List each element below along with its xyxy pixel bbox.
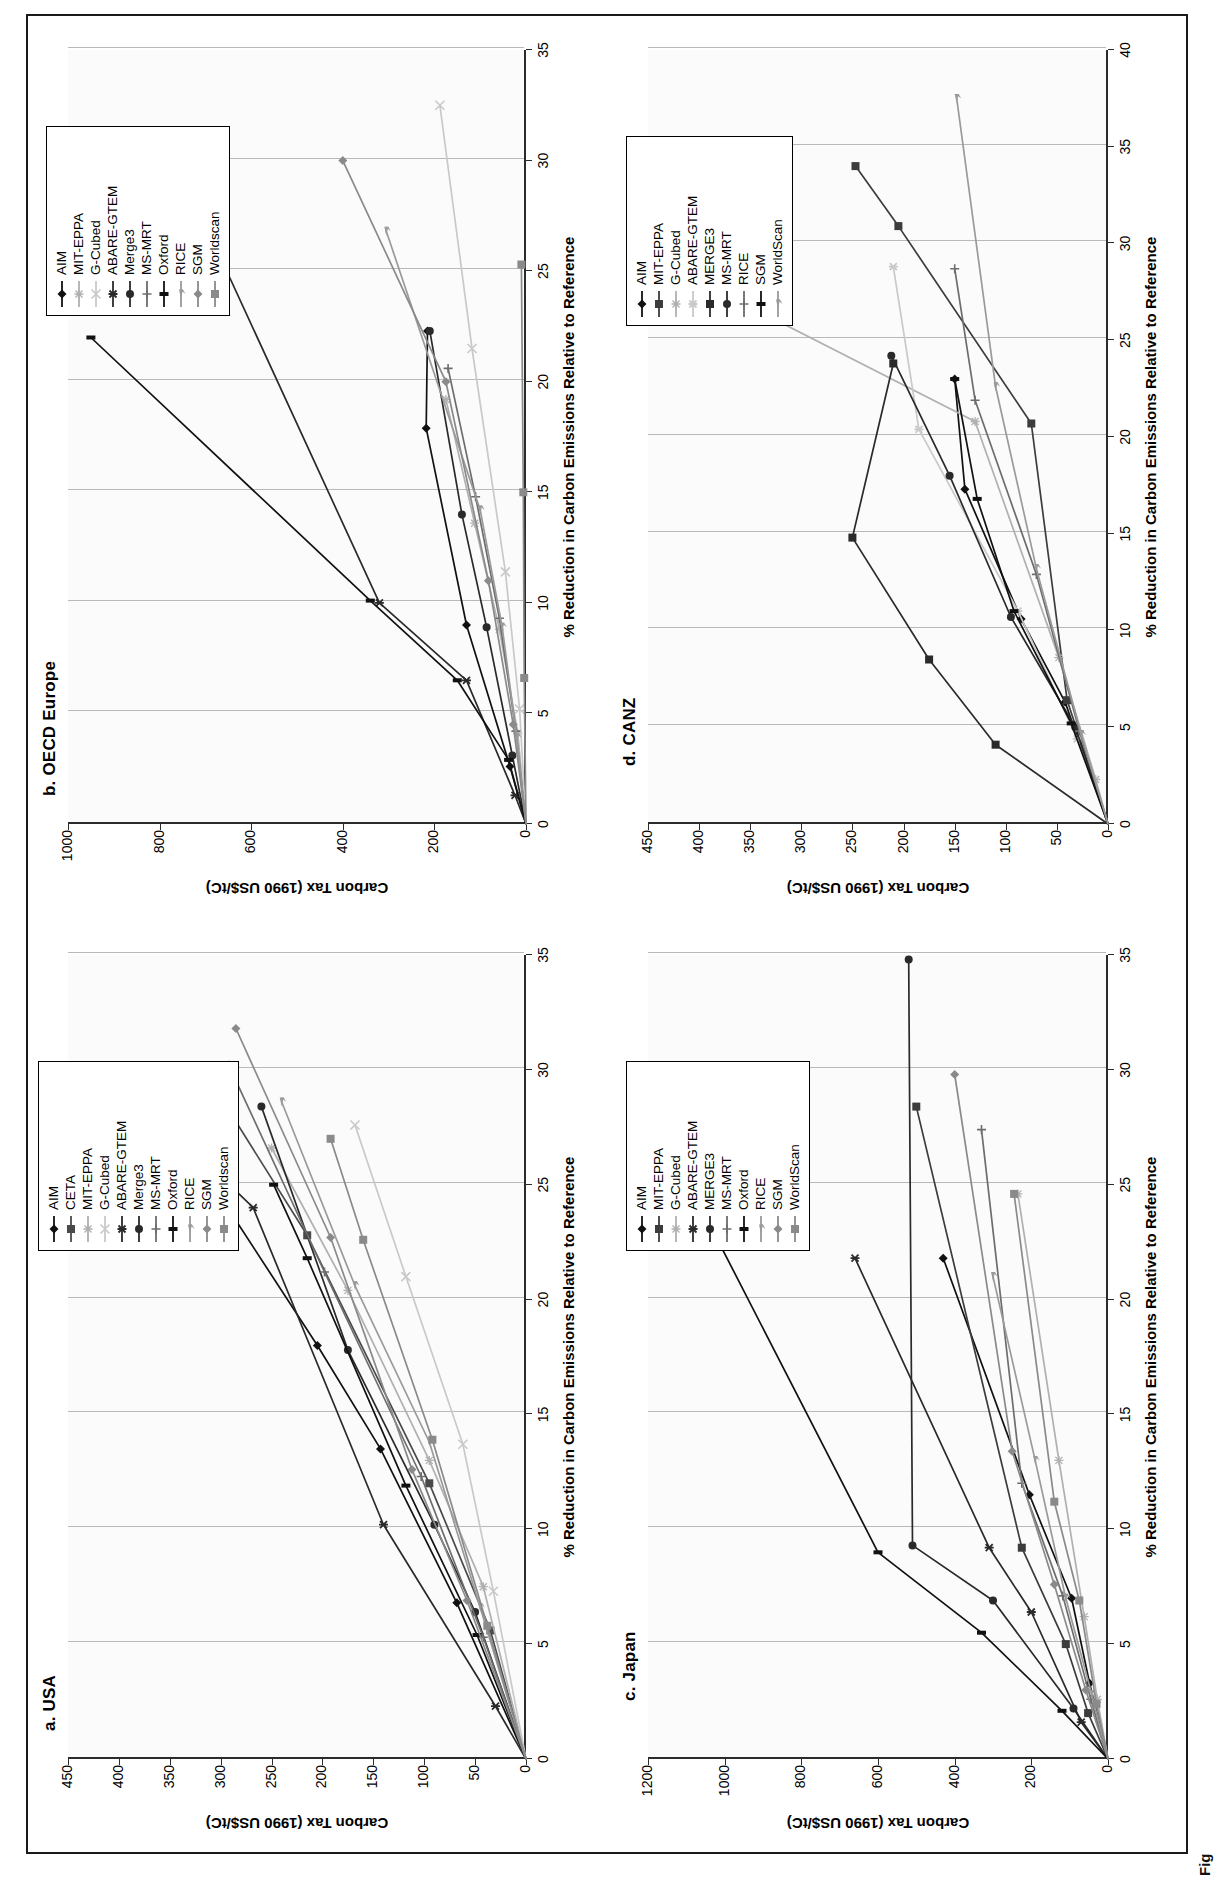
legend-item[interactable]: RICE xyxy=(735,145,752,317)
legend-item[interactable]: MERGE3 xyxy=(701,1070,718,1242)
legend-item[interactable]: WorldScan xyxy=(786,1070,803,1242)
legend-item[interactable]: ABARE-GTEM xyxy=(684,145,701,317)
legend-item[interactable]: MERGE3 xyxy=(701,145,718,317)
legend-item[interactable]: ABARE-GTEM xyxy=(113,1070,130,1242)
series-marker xyxy=(483,1622,491,1630)
series-line xyxy=(957,98,1108,824)
legend-item[interactable]: ABARE-GTEM xyxy=(684,1070,701,1242)
series-marker xyxy=(249,1204,258,1211)
legend-item[interactable]: MIT-EPPA xyxy=(650,1070,667,1242)
legend-item[interactable]: CETA xyxy=(62,1070,79,1242)
legend-label: SGM xyxy=(769,1179,786,1210)
legend-item[interactable]: SGM xyxy=(752,145,769,317)
series-marker xyxy=(1075,1597,1083,1605)
series-marker xyxy=(519,488,527,496)
legend-label: MS-MRT xyxy=(718,1156,735,1210)
legend-item[interactable]: G-Cubed xyxy=(667,1070,684,1242)
series-marker xyxy=(1067,721,1076,725)
legend-item[interactable]: G-Cubed xyxy=(96,1070,113,1242)
legend-label: AIM xyxy=(45,1186,62,1210)
legend-label: Oxford xyxy=(735,1169,752,1210)
legend-item[interactable]: ABARE-GTEM xyxy=(104,135,121,307)
series-line xyxy=(852,364,1108,825)
legend-marker-bar-icon xyxy=(754,291,768,317)
series-marker xyxy=(517,261,525,269)
legend-item[interactable]: AIM xyxy=(633,145,650,317)
series-marker xyxy=(1093,1700,1101,1708)
legend-item[interactable]: SGM xyxy=(198,1070,215,1242)
legend-marker-tri-icon xyxy=(183,1216,197,1242)
legend-item[interactable]: RICE xyxy=(181,1070,198,1242)
series-marker xyxy=(401,1272,410,1281)
legend-label: ABARE-GTEM xyxy=(684,196,701,285)
legend-marker-bar-icon xyxy=(737,1216,751,1242)
legend-marker-square-icon xyxy=(788,1216,802,1242)
series-marker xyxy=(425,1479,433,1487)
legend-item[interactable]: WorldScan xyxy=(769,145,786,317)
legend-item[interactable]: Worldscan xyxy=(215,1070,232,1242)
legend-label: SGM xyxy=(752,254,769,285)
legend-label: MIT-EPPA xyxy=(650,223,667,285)
series-marker xyxy=(874,1550,883,1554)
series-marker xyxy=(1007,613,1015,621)
legend-item[interactable]: AIM xyxy=(45,1070,62,1242)
legend-label: AIM xyxy=(53,251,70,275)
series-marker xyxy=(950,1070,959,1079)
panel-japan: c. Japan05101520253035020040060080010001… xyxy=(608,921,1186,1851)
legend: AIM CETA xyxy=(38,1061,239,1251)
legend-item[interactable]: MIT-EPPA xyxy=(650,145,667,317)
legend-item[interactable]: MIT-EPPA xyxy=(79,1070,96,1242)
legend-marker-plus-icon xyxy=(737,291,751,317)
legend-item[interactable]: MS-MRT xyxy=(718,145,735,317)
series-line xyxy=(855,1258,1108,1759)
legend-item[interactable]: AIM xyxy=(53,135,70,307)
legend-item[interactable]: G-Cubed xyxy=(87,135,104,307)
legend-item[interactable]: MS-MRT xyxy=(138,135,155,307)
legend-label: RICE xyxy=(172,243,189,275)
series-marker xyxy=(971,396,980,405)
legend-item[interactable]: SGM xyxy=(189,135,206,307)
series-marker xyxy=(1050,1498,1058,1506)
legend-label: MS-MRT xyxy=(718,231,735,285)
series-marker xyxy=(1027,420,1035,428)
legend-label: RICE xyxy=(181,1178,198,1210)
legend-item[interactable]: Merge3 xyxy=(121,135,138,307)
legend-item[interactable]: RICE xyxy=(172,135,189,307)
legend-label: RICE xyxy=(735,253,752,285)
series-marker xyxy=(462,621,471,630)
legend-label: ABARE-GTEM xyxy=(684,1121,701,1210)
series-marker xyxy=(992,741,1000,749)
series-marker xyxy=(504,758,513,762)
series-marker xyxy=(1054,1456,1063,1465)
legend-marker-circle-icon xyxy=(720,291,734,317)
legend-label: CETA xyxy=(62,1175,79,1210)
legend-item[interactable]: Merge3 xyxy=(130,1070,147,1242)
legend-item[interactable]: MS-MRT xyxy=(147,1070,164,1242)
legend-marker-diamond-icon xyxy=(771,1216,785,1242)
series-marker xyxy=(977,1631,986,1635)
legend-item[interactable]: Oxford xyxy=(735,1070,752,1242)
series-line xyxy=(694,1194,1108,1759)
legend: AIM MIT-EPPA xyxy=(626,136,793,326)
legend-item[interactable]: MS-MRT xyxy=(718,1070,735,1242)
legend-marker-diamond-icon xyxy=(635,1216,649,1242)
series-marker xyxy=(444,364,453,373)
series-marker xyxy=(887,352,895,360)
panel-canz: d. CANZ051015202530354005010015020025030… xyxy=(608,16,1186,916)
legend-item[interactable]: AIM xyxy=(633,1070,650,1242)
legend-item[interactable]: Oxford xyxy=(155,135,172,307)
panel-oecd-europe: b. OECD Europe05101520253035020040060080… xyxy=(28,16,604,916)
legend-item[interactable]: Worldscan xyxy=(206,135,223,307)
legend-item[interactable]: SGM xyxy=(769,1070,786,1242)
figure-page: b. OECD Europe05101520253035020040060080… xyxy=(0,0,1216,1880)
legend-item[interactable]: RICE xyxy=(752,1070,769,1242)
legend-marker-diamond-icon xyxy=(635,291,649,317)
legend-item[interactable]: G-Cubed xyxy=(667,145,684,317)
legend-label: Merge3 xyxy=(130,1164,147,1210)
series-marker xyxy=(313,1341,322,1350)
series-marker xyxy=(257,1103,265,1111)
legend-item[interactable]: Oxford xyxy=(164,1070,181,1242)
series-marker xyxy=(939,1254,948,1263)
legend-item[interactable]: MIT-EPPA xyxy=(70,135,87,307)
legend-label: Oxford xyxy=(155,234,172,275)
